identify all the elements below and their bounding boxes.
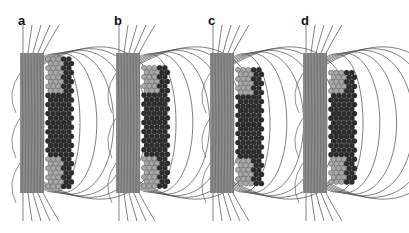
particle (248, 154, 253, 159)
particle (56, 147, 61, 152)
particle (58, 125, 63, 130)
particle (51, 175, 56, 180)
particle (162, 120, 167, 125)
particle (352, 148, 357, 153)
particle (248, 181, 253, 186)
particle (235, 113, 240, 118)
particle (246, 113, 251, 118)
particle (58, 70, 63, 75)
particle (341, 120, 346, 125)
field-line (202, 73, 210, 113)
particle (241, 140, 246, 145)
particle (165, 79, 170, 84)
particle (53, 179, 58, 184)
particle (69, 152, 74, 157)
particle (165, 97, 170, 102)
particle (69, 125, 74, 130)
particle (334, 79, 339, 84)
particle (51, 111, 56, 116)
particle (162, 138, 167, 143)
particle (336, 120, 341, 125)
particle (69, 170, 74, 175)
particle (336, 75, 341, 80)
particle (347, 148, 352, 153)
particle (66, 56, 71, 61)
particle (144, 179, 149, 184)
particle (141, 83, 146, 88)
particle (141, 184, 146, 189)
particle (149, 179, 154, 184)
particle (45, 102, 50, 107)
particle (152, 184, 157, 189)
particle (238, 117, 243, 122)
particle (341, 111, 346, 116)
particle (251, 122, 256, 127)
particle (246, 176, 251, 181)
particle (69, 97, 74, 102)
field-line (124, 25, 128, 53)
particle (152, 165, 157, 170)
particle (349, 116, 354, 121)
particle (51, 184, 56, 189)
particle (147, 129, 152, 134)
particle (147, 156, 152, 161)
particle (238, 90, 243, 95)
particle (347, 75, 352, 80)
particle (141, 120, 146, 125)
particle (344, 152, 349, 157)
particle (157, 83, 162, 88)
particle (235, 104, 240, 109)
particle (66, 84, 71, 89)
particle (64, 143, 69, 148)
particle (56, 120, 61, 125)
particle (341, 102, 346, 107)
particle (259, 172, 264, 177)
particle (256, 176, 261, 181)
particle (259, 154, 264, 159)
particle (53, 161, 58, 166)
particle (246, 95, 251, 100)
particle (246, 104, 251, 109)
particle (144, 170, 149, 175)
particle (339, 161, 344, 166)
particle (48, 70, 53, 75)
particle (45, 157, 50, 162)
particle (144, 152, 149, 157)
particle (58, 161, 63, 166)
particle (246, 158, 251, 163)
particle (347, 111, 352, 116)
particle (53, 152, 58, 157)
particle (254, 172, 259, 177)
particle (259, 181, 264, 186)
particle (254, 99, 259, 104)
particle (69, 79, 74, 84)
particle (160, 115, 165, 120)
particle (331, 120, 336, 125)
particle (235, 76, 240, 81)
field-line (326, 25, 342, 53)
particle (58, 97, 63, 102)
particle (51, 84, 56, 89)
particle (165, 152, 170, 157)
particle (51, 93, 56, 98)
particle (162, 184, 167, 189)
particle (246, 76, 251, 81)
particle (328, 107, 333, 112)
particle (157, 129, 162, 134)
particle (235, 85, 240, 90)
field-line (139, 193, 155, 221)
particle (141, 65, 146, 70)
particle (154, 70, 159, 75)
particle (48, 161, 53, 166)
particle (64, 170, 69, 175)
particle (144, 161, 149, 166)
particle (147, 174, 152, 179)
particle (254, 145, 259, 150)
particle (344, 116, 349, 121)
particle (341, 175, 346, 180)
particle (144, 134, 149, 139)
particle (334, 125, 339, 130)
particle (241, 167, 246, 172)
particle (61, 138, 66, 143)
particle (61, 56, 66, 61)
